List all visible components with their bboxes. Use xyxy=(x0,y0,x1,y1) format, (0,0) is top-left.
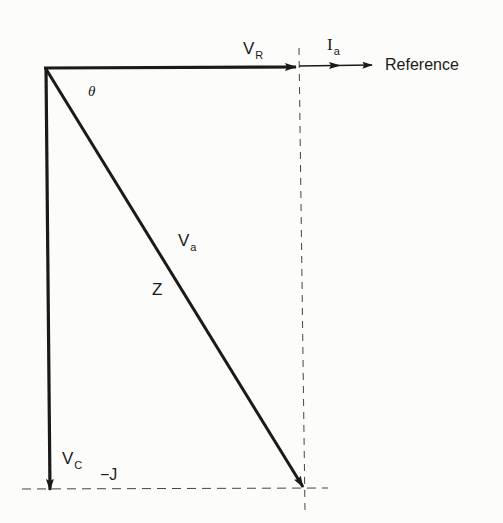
ia-label-sub: a xyxy=(334,45,340,57)
vr-vector xyxy=(44,67,296,68)
vc-label-main: V xyxy=(62,449,73,468)
va-label: Va xyxy=(178,232,196,249)
ia-label-main: I xyxy=(327,35,333,54)
vc-vector xyxy=(46,67,50,490)
va-label-sub: a xyxy=(190,241,196,253)
theta-label: θ xyxy=(88,84,95,99)
vertical-dashed-guide xyxy=(299,48,305,512)
va-vector xyxy=(46,69,303,487)
vr-label-sub: R xyxy=(255,49,263,61)
vc-label: VC xyxy=(62,450,82,467)
vr-label: VR xyxy=(243,40,263,57)
ia-label: Ia xyxy=(327,36,340,53)
horizontal-dashed-guide xyxy=(22,488,328,489)
z-label: Z xyxy=(152,281,162,298)
negative-j-label: −J xyxy=(100,467,117,483)
reference-label: Reference xyxy=(385,57,459,73)
diagram-graphics xyxy=(0,0,503,523)
vc-label-sub: C xyxy=(74,459,82,471)
phasor-diagram: VR Ia Reference θ Va Z VC −J xyxy=(0,0,503,523)
va-label-main: V xyxy=(178,231,189,250)
vr-label-main: V xyxy=(243,39,254,58)
